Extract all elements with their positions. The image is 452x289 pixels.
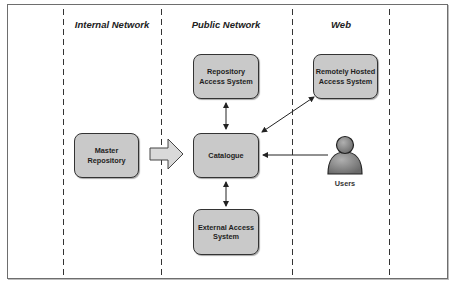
node-catalogue: Catalogue <box>193 133 259 178</box>
node-label: Master Repository <box>82 146 132 164</box>
column-header-internal-network: Internal Network <box>57 19 167 30</box>
node-label: External Access System <box>195 223 257 241</box>
node-master-repository: Master Repository <box>74 133 139 178</box>
node-external-access-system: External Access System <box>193 209 259 255</box>
user-icon <box>328 137 362 175</box>
node-remotely-hosted-access-system: Remotely Hosted Access System <box>313 54 378 99</box>
block-arrow-icon <box>150 139 183 169</box>
node-repository-access-system: Repository Access System <box>193 54 259 99</box>
node-label: Remotely Hosted Access System <box>316 67 376 85</box>
column-header-web: Web <box>286 19 396 30</box>
column-header-public-network: Public Network <box>171 19 281 30</box>
node-label: Repository Access System <box>195 67 257 85</box>
edge-catalogue-remote-access <box>262 97 314 132</box>
users-label: Users <box>320 179 370 188</box>
node-label: Catalogue <box>208 151 243 160</box>
